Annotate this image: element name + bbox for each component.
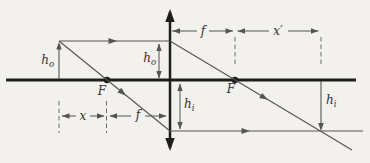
object-height-at-lens-label: ho — [143, 51, 156, 67]
object-height-dim-arrow-up-icon — [156, 44, 161, 52]
dim-f-top-arrow-right-icon — [226, 28, 234, 33]
dim-f-bottom-arrow-left-icon — [110, 113, 118, 118]
image-height-label: hi — [326, 93, 337, 109]
image-height-at-lens-label: hi — [184, 97, 195, 113]
refracted-focal-ray-direction-icon — [259, 93, 269, 102]
image-height-dim-arrow-up-icon — [177, 84, 182, 92]
image-focal-distance-label: x′ — [273, 24, 283, 38]
dim-f-bottom-arrow-right-icon — [159, 113, 167, 118]
dim-x-prime-arrow-right-icon — [311, 28, 319, 33]
dim-x-prime-arrow-left-icon — [238, 28, 246, 33]
parallel-ray-direction-icon — [109, 38, 118, 44]
lens-ray-diagram: ho ho hi hi F F f x′ x f — [0, 0, 370, 163]
object-focal-distance-label: x — [80, 109, 87, 123]
object-height-label: ho — [41, 53, 54, 69]
object-height-dim-arrow-down-icon — [156, 71, 161, 79]
image-height-dim-arrow-down-icon — [177, 122, 182, 130]
focal-length-top-label: f — [200, 24, 208, 38]
dim-x-arrow-right-icon — [97, 113, 105, 118]
lens-arrow-down-icon — [165, 138, 174, 151]
dim-x-arrow-left-icon — [62, 113, 70, 118]
dim-f-top-arrow-left-icon — [173, 28, 181, 33]
refracted-parallel-ray-direction-icon — [242, 128, 251, 134]
ray-diagram-canvas: ho ho hi hi F F f x′ x f — [0, 0, 370, 163]
left-focal-point-label: F — [97, 84, 107, 98]
focal-length-bottom-label: f — [135, 108, 143, 122]
lens-arrow-up-icon — [165, 9, 174, 22]
right-focal-point-label: F — [226, 82, 236, 96]
